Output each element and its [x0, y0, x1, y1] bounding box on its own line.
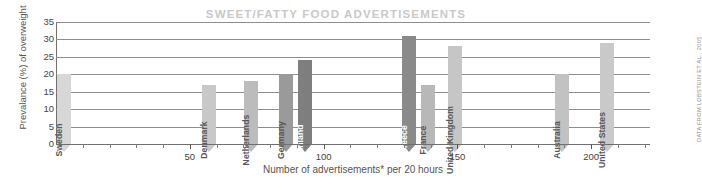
x-axis-minor-tick: [538, 144, 539, 148]
x-axis-major-tick: [324, 144, 325, 149]
x-axis-tick-label: 50: [184, 151, 195, 162]
y-axis-tick-label: 35: [32, 17, 54, 27]
bar: Germany: [279, 74, 293, 152]
y-axis-tick-label: 10: [32, 104, 54, 114]
x-axis-minor-tick: [618, 144, 619, 148]
x-axis-minor-tick: [564, 144, 565, 148]
x-axis-tick-label: 200: [583, 151, 599, 162]
bar: United Kingdom: [448, 46, 462, 152]
bar: Denmark: [202, 85, 216, 152]
x-axis-minor-tick: [404, 144, 405, 148]
x-axis-minor-tick: [110, 144, 111, 148]
bar: Finland: [298, 60, 312, 152]
gridline: [56, 57, 650, 58]
y-axis-tick-label: 30: [32, 34, 54, 44]
bar-label: Netherlands: [241, 115, 251, 166]
x-axis-minor-tick: [297, 144, 298, 148]
bar: United States: [600, 43, 614, 152]
x-axis-minor-tick: [217, 144, 218, 148]
plot-area: SwedenDenmarkNetherlandsGermanyFinlandGr…: [56, 22, 650, 144]
bar: France: [421, 85, 435, 152]
y-axis-tick-labels: 05101520253035: [30, 0, 54, 182]
bar: Sweden: [57, 74, 71, 152]
x-axis-tick-label: 100: [316, 151, 332, 162]
y-axis-tick-label: 5: [32, 122, 54, 132]
x-axis-major-tick: [591, 144, 592, 149]
x-axis-minor-tick: [377, 144, 378, 148]
x-axis-minor-tick: [83, 144, 84, 148]
bar: Netherlands: [244, 81, 258, 152]
x-axis-minor-tick: [163, 144, 164, 148]
x-axis-minor-tick: [645, 144, 646, 148]
page-title: SWEET/FATTY FOOD ADVERTISEMENTS: [186, 8, 486, 20]
x-axis-minor-tick: [243, 144, 244, 148]
x-axis-minor-tick: [484, 144, 485, 148]
x-axis-minor-tick: [431, 144, 432, 148]
y-axis-tick-label: 25: [32, 52, 54, 62]
data-source-credit: DATA FROM LOBSTEIN ET AL., 2005.: [696, 14, 702, 142]
gridline: [56, 39, 650, 40]
x-axis-minor-tick: [511, 144, 512, 148]
x-axis-ticks: 50100150200: [56, 144, 650, 154]
x-axis-major-tick: [190, 144, 191, 149]
x-axis-minor-tick: [270, 144, 271, 148]
y-axis-tick-label: 0: [32, 139, 54, 149]
y-axis-tick-label: 20: [32, 69, 54, 79]
x-axis-title: Number of advertisements* per 20 hours: [56, 164, 650, 175]
x-axis-minor-tick: [350, 144, 351, 148]
bar: Australia: [555, 74, 569, 152]
x-axis-minor-tick: [136, 144, 137, 148]
bar: Greece: [402, 36, 416, 152]
y-axis-tick-label: 15: [32, 87, 54, 97]
x-axis-tick-label: 150: [449, 151, 465, 162]
y-axis-title: Prevalance (%) of overweight: [17, 0, 28, 138]
x-axis-major-tick: [457, 144, 458, 149]
gridline: [56, 22, 650, 23]
